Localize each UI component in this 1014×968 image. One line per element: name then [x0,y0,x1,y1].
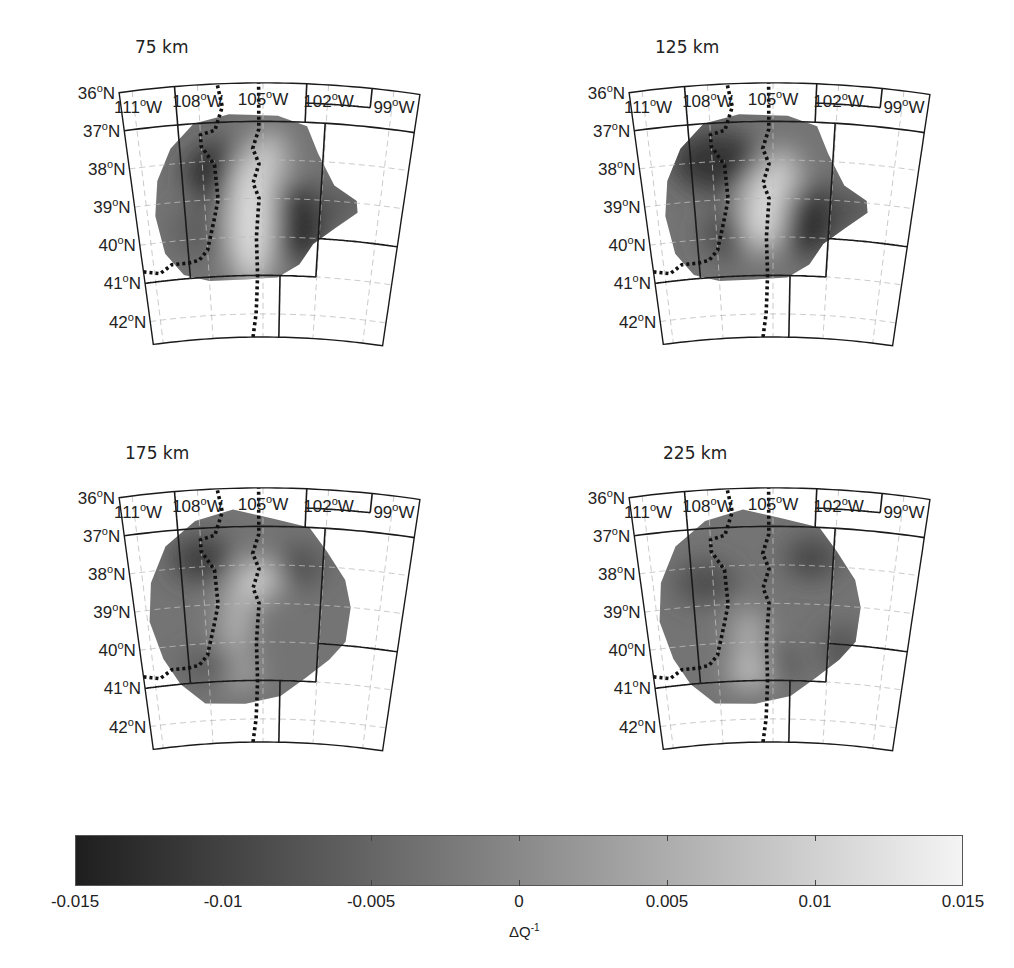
colorbar-tick-label: -0.005 [347,892,395,912]
lon-tick-label: 108oW [172,90,223,111]
anomaly-blob [732,609,764,661]
anomaly-blob [727,659,771,687]
colorbar-tick-mark [815,880,816,886]
lat-tick-label: 39oN [93,196,130,217]
lat-tick-label: 42oN [619,716,656,737]
colorbar-tick-mark [667,880,668,886]
colorbar-tick-mark [519,880,520,886]
anomaly-field [510,0,1010,400]
lat-tick-label: 40oN [609,234,646,255]
lat-tick-label: 38oN [598,158,635,179]
lat-tick-label: 37oN [83,525,120,546]
lon-tick-label: 105oW [238,88,289,109]
anomaly-blob [311,189,363,221]
lon-tick-label: 102oW [813,90,864,111]
map-canvas: 42oN41oN40oN39oN38oN37oN36oN111oW108oW10… [510,405,1010,805]
anomaly-blob [672,132,760,192]
lat-tick-label: 41oN [614,677,651,698]
lon-tick-label: 105oW [748,493,799,514]
lon-tick-label: 111oW [114,96,162,117]
anomaly-field [510,405,1010,805]
colorbar-tick-mark [519,835,520,841]
colorbar-label-text: ΔQ [509,923,531,940]
lat-tick-label: 40oN [609,639,646,660]
colorbar-tick-label: 0.015 [942,892,985,912]
lat-tick-label: 42oN [619,311,656,332]
lat-tick-label: 37oN [83,120,120,141]
lat-tick-label: 37oN [593,525,630,546]
map-panel-125km: 125 km 42oN41oN40oN39oN38oN37oN36oN111oW… [510,0,1010,400]
colorbar [75,835,963,886]
anomaly-blob [220,579,252,659]
lon-tick-label: 99oW [373,501,414,522]
lat-tick-label: 39oN [93,601,130,622]
colorbar-tick-mark [223,880,224,886]
lon-tick-label: 108oW [172,495,223,516]
lon-tick-label: 99oW [373,96,414,117]
lat-tick-label: 42oN [109,311,146,332]
colorbar-tick-label: -0.01 [204,892,243,912]
anomaly-blob [171,203,231,259]
lat-tick-label: 38oN [598,563,635,584]
map-panel-225km: 225 km 42oN41oN40oN39oN38oN37oN36oN111oW… [510,405,1010,805]
lat-tick-label: 39oN [603,601,640,622]
lat-tick-label: 38oN [88,158,125,179]
lon-tick-label: 102oW [303,495,354,516]
colorbar-label: ΔQ-1 [509,922,540,940]
colorbar-tick-mark [371,835,372,841]
colorbar-tick-mark [371,880,372,886]
anomaly-field [0,0,500,400]
lon-tick-label: 102oW [813,495,864,516]
lat-tick-label: 39oN [603,196,640,217]
lat-tick-label: 36oN [78,82,115,103]
lat-tick-label: 42oN [109,716,146,737]
lat-tick-label: 40oN [99,639,136,660]
lon-tick-label: 99oW [883,96,924,117]
anomaly-field [0,405,500,805]
colorbar-tick-label: 0 [514,892,523,912]
colorbar-tick-label: 0.01 [798,892,831,912]
lon-tick-label: 99oW [883,501,924,522]
lat-tick-label: 41oN [614,272,651,293]
colorbar-tick-mark [223,835,224,841]
lon-tick-label: 111oW [624,501,672,522]
anomaly-blob [763,149,799,201]
lon-tick-label: 102oW [303,90,354,111]
lat-tick-label: 36oN [588,82,625,103]
lat-tick-label: 36oN [78,487,115,508]
anomaly-blob [786,538,838,578]
map-canvas: 42oN41oN40oN39oN38oN37oN36oN111oW108oW10… [0,0,500,400]
colorbar-tick-label: -0.015 [51,892,99,912]
lat-tick-label: 40oN [99,234,136,255]
lat-tick-label: 41oN [104,272,141,293]
lon-tick-label: 105oW [748,88,799,109]
map-canvas: 42oN41oN40oN39oN38oN37oN36oN111oW108oW10… [510,0,1010,400]
map-panel-75km: 75 km 42oN41oN40oN39oN38oN37oN36oN111oW1… [0,0,500,400]
lon-tick-label: 111oW [624,96,672,117]
lon-tick-label: 111oW [114,501,162,522]
colorbar-tick-mark [815,835,816,841]
lat-tick-label: 36oN [588,487,625,508]
lat-tick-label: 38oN [88,563,125,584]
lon-tick-label: 105oW [238,493,289,514]
map-canvas: 42oN41oN40oN39oN38oN37oN36oN111oW108oW10… [0,405,500,805]
colorbar-tick-label: 0.005 [646,892,689,912]
lon-tick-label: 108oW [682,495,733,516]
lat-tick-label: 37oN [593,120,630,141]
lon-tick-label: 108oW [682,90,733,111]
colorbar-tick-mark [667,835,668,841]
colorbar-label-superscript: -1 [531,922,540,933]
map-panel-175km: 175 km 42oN41oN40oN39oN38oN37oN36oN111oW… [0,405,500,805]
lat-tick-label: 41oN [104,677,141,698]
